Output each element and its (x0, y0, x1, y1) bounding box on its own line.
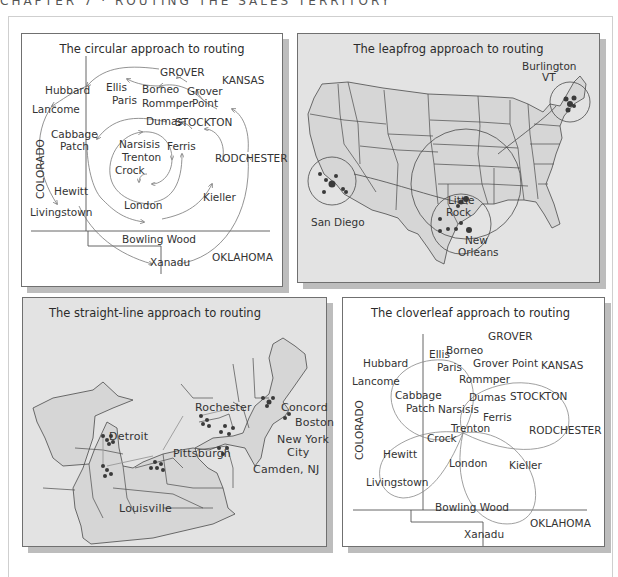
city-label: Narsisis (119, 138, 160, 150)
city-label: GROVER (488, 330, 533, 342)
panel-leapfrog-routing: The leapfrog approach to routing (297, 33, 600, 283)
region-label: COLORADO (353, 400, 365, 460)
city-label: Livingstown (30, 206, 92, 218)
region-label: KANSAS (222, 74, 264, 86)
city-label: Little (448, 194, 474, 206)
city-label: Pittsburgh (173, 448, 231, 460)
city-label: New (465, 234, 488, 246)
city-label: Point (192, 97, 218, 109)
city-label: Crock (115, 164, 145, 176)
city-label: Detroit (109, 431, 148, 443)
region-label: KANSAS (541, 359, 583, 371)
city-label: Rommper (459, 373, 510, 385)
city-label: Orleans (458, 246, 499, 258)
city-label: Hubbard (45, 84, 90, 96)
panel-straight-line-routing: The straight-line approach to routing (22, 297, 327, 547)
city-label: New York (277, 434, 329, 446)
city-label: Borneo (142, 83, 179, 95)
city-label: Crock (427, 432, 457, 444)
city-label: GROVER (160, 66, 205, 78)
panel-circular-routing: The circular approach to routing (21, 33, 283, 287)
city-label: Hewitt (54, 185, 88, 197)
city-label: London (449, 457, 488, 469)
city-label: Dumas (469, 391, 506, 403)
city-label: Livingstown (366, 476, 428, 488)
city-label: RODCHESTER (529, 424, 602, 436)
panel-cloverleaf-routing: The cloverleaf approach to routing GROVE… (342, 297, 605, 547)
city-label: Boston (295, 417, 334, 429)
city-label: Rock (446, 206, 471, 218)
city-label: Concord (281, 402, 328, 414)
city-label: Camden, NJ (253, 464, 319, 476)
city-label: San Diego (311, 216, 365, 228)
city-label: Xanadu (150, 256, 190, 268)
city-label: Rommper (142, 97, 193, 109)
city-label: Patch (406, 402, 435, 414)
city-label: Hubbard (363, 357, 408, 369)
city-label: Ferris (167, 140, 196, 152)
city-label: Lancome (32, 103, 80, 115)
city-label: Paris (112, 94, 137, 106)
city-label: Patch (60, 140, 89, 152)
city-label: London (124, 199, 163, 211)
page-header-truncated: CHAPTER 7 · ROUTING THE SALES TERRITORY (0, 0, 618, 6)
city-label: Xanadu (464, 528, 504, 540)
city-label: Bowling Wood (435, 501, 509, 513)
city-label: Cabbage (51, 128, 98, 140)
city-label: Kieller (509, 459, 542, 471)
city-label: Trenton (122, 151, 161, 163)
region-label: OKLAHOMA (530, 517, 591, 529)
city-label: RODCHESTER (215, 152, 288, 164)
city-label: Grover (187, 85, 223, 97)
city-label: Hewitt (383, 448, 417, 460)
city-label: Louisville (119, 503, 172, 515)
city-label: Grover Point (473, 357, 538, 369)
city-label: Lancome (352, 375, 400, 387)
region-label: OKLAHOMA (212, 251, 273, 263)
region-label: COLORADO (34, 139, 46, 199)
city-label: Paris (437, 361, 462, 373)
city-label: Narsisis (438, 403, 479, 415)
city-label: Borneo (446, 344, 483, 356)
city-label: Kieller (203, 191, 236, 203)
city-label: Rochester (195, 402, 252, 414)
city-label: STOCKTON (510, 390, 567, 402)
city-label: Ellis (106, 81, 127, 93)
city-label: STOCKTON (175, 116, 232, 128)
city-label: Cabbage (395, 389, 442, 401)
city-label: VT (542, 71, 556, 83)
city-label: Bowling Wood (122, 233, 196, 245)
northeast-map-straight-line (23, 298, 328, 548)
city-label: City (287, 447, 309, 459)
